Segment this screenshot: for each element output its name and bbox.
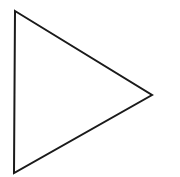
triangle-shape bbox=[14, 11, 152, 173]
diagram-canvas bbox=[0, 0, 180, 177]
